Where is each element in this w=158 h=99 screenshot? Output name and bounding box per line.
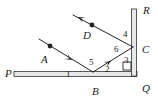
point-label-c: C [142, 44, 149, 55]
angle-label-5: 5 [89, 58, 94, 67]
angle-label-6: 6 [114, 45, 119, 54]
reflection-diagram: P A D B C R Q 1 5 2 6 4 3 [0, 0, 158, 99]
vertical-mirror [132, 9, 137, 76]
ray-a-marker-dot [48, 44, 53, 49]
point-label-a: A [41, 54, 48, 65]
angle-label-2: 2 [105, 65, 110, 74]
point-label-d: D [83, 30, 91, 41]
angle-label-3: 3 [124, 56, 129, 65]
ray-d-marker-dot [90, 23, 95, 28]
diagram-canvas [0, 0, 158, 99]
point-label-r: R [143, 5, 150, 16]
angle-label-1: 1 [66, 70, 71, 79]
point-label-q: Q [142, 83, 150, 94]
angle-label-4: 4 [123, 30, 128, 39]
point-label-b: B [92, 86, 99, 97]
horizontal-mirror-bar [14, 72, 137, 77]
point-label-p: P [5, 68, 12, 79]
vertical-mirror-bar [132, 9, 137, 76]
horizontal-mirror [14, 72, 137, 77]
